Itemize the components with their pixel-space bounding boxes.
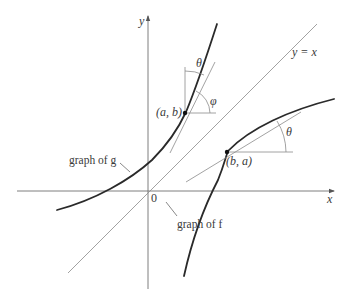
x-axis-label: x xyxy=(326,192,333,206)
line-y-equals-x xyxy=(68,24,317,273)
theta-label-right: θ xyxy=(286,125,292,139)
curve-g xyxy=(57,24,217,210)
phi-arc xyxy=(196,91,210,113)
origin-label: 0 xyxy=(151,191,157,205)
leader-g xyxy=(120,163,130,172)
point-ab xyxy=(183,111,187,115)
point-ba-label: (b, a) xyxy=(226,154,252,168)
point-ab-label: (a, b) xyxy=(156,105,182,119)
inverse-function-diagram: y x 0 y = x (a, b) (b, a) θ φ θ graph of… xyxy=(0,0,348,289)
theta-label-top: θ xyxy=(196,56,202,70)
diagonal-label: y = x xyxy=(291,45,317,59)
y-axis-label: y xyxy=(138,14,145,28)
curve-f xyxy=(184,99,334,276)
tangent-at-ba xyxy=(186,112,301,182)
leader-f xyxy=(166,202,177,216)
phi-label: φ xyxy=(210,94,217,108)
curve-f-label: graph of f xyxy=(177,218,223,231)
curve-g-label: graph of g xyxy=(69,154,117,167)
